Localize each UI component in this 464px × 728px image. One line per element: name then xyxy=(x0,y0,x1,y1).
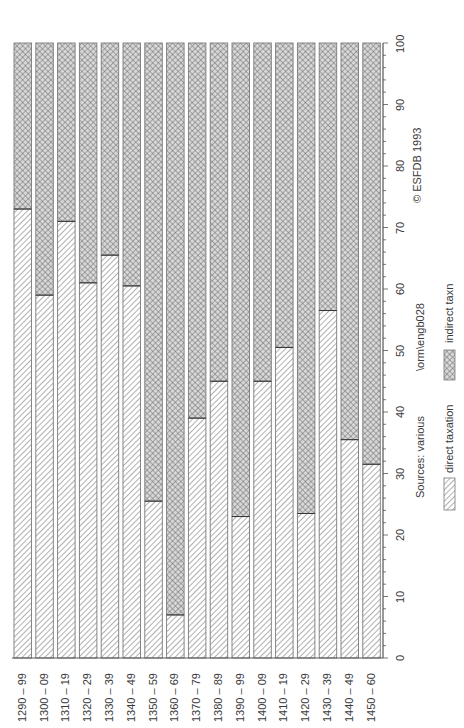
bar-segment-indirect-taxn xyxy=(254,43,271,381)
bar xyxy=(58,43,76,658)
category-label: 1310 – 19 xyxy=(59,673,71,722)
bar-segment-direct-taxation xyxy=(58,221,76,658)
bar-segment-direct-taxation xyxy=(210,381,228,658)
tick-label: 90 xyxy=(394,99,406,111)
bar-segment-direct-taxation xyxy=(254,381,271,658)
bar xyxy=(145,43,163,658)
bar-segment-direct-taxation xyxy=(36,295,54,658)
bar-segment-indirect-taxn xyxy=(319,43,337,311)
bar xyxy=(36,43,54,658)
bar-segment-direct-taxation xyxy=(188,418,206,658)
category-label: 1290 – 99 xyxy=(16,673,28,722)
bars-group xyxy=(14,43,380,658)
bar-segment-direct-taxation xyxy=(14,209,32,658)
category-label: 1340 – 49 xyxy=(125,673,137,722)
bar xyxy=(123,43,141,658)
bar-segment-indirect-taxn xyxy=(363,43,381,464)
bar xyxy=(341,43,359,658)
category-label: 1330 – 39 xyxy=(103,673,115,722)
bar xyxy=(79,43,97,658)
bar-segment-indirect-taxn xyxy=(232,43,250,517)
bar-segment-direct-taxation xyxy=(341,440,359,658)
category-label: 1380 – 89 xyxy=(212,673,224,722)
bar xyxy=(297,43,315,658)
category-label: 1320 – 29 xyxy=(81,673,93,722)
tick-label: 100 xyxy=(394,34,406,52)
category-label: 1360 – 69 xyxy=(168,673,180,722)
bar-segment-indirect-taxn xyxy=(341,43,359,440)
bar-segment-indirect-taxn xyxy=(36,43,54,295)
bar xyxy=(254,43,271,658)
bar-segment-indirect-taxn xyxy=(188,43,206,418)
tick-label: 50 xyxy=(394,345,406,357)
category-label: 1430 – 39 xyxy=(321,673,333,722)
bar-segment-direct-taxation xyxy=(79,283,97,658)
tick-label: 0 xyxy=(394,655,406,661)
tick-label: 80 xyxy=(394,160,406,172)
category-label: 1400 – 09 xyxy=(256,673,268,722)
bar-segment-direct-taxation xyxy=(101,255,119,658)
tick-label: 30 xyxy=(394,468,406,480)
bar-segment-direct-taxation xyxy=(145,501,163,658)
bar-segment-indirect-taxn xyxy=(101,43,119,255)
bar xyxy=(319,43,337,658)
category-label: 1370 – 79 xyxy=(190,673,202,722)
bar-segment-indirect-taxn xyxy=(14,43,32,209)
bar-segment-indirect-taxn xyxy=(145,43,163,501)
bar xyxy=(101,43,119,658)
bar xyxy=(276,43,294,658)
bar-segment-indirect-taxn xyxy=(276,43,294,347)
tick-label: 20 xyxy=(394,529,406,541)
category-label: 1390 – 99 xyxy=(234,673,246,722)
bar xyxy=(232,43,250,658)
category-label: 1410 – 19 xyxy=(277,673,289,722)
category-label: 1300 – 09 xyxy=(38,673,50,722)
bar xyxy=(14,43,32,658)
category-label: 1350 – 59 xyxy=(147,673,159,722)
bar-segment-indirect-taxn xyxy=(297,43,315,513)
bar xyxy=(210,43,228,658)
bar-segment-direct-taxation xyxy=(167,615,185,658)
category-label: 1440 – 49 xyxy=(343,673,355,722)
category-label: 1450 – 60 xyxy=(365,673,377,722)
bar-segment-indirect-taxn xyxy=(58,43,76,221)
tick-label: 10 xyxy=(394,591,406,603)
bar-segment-indirect-taxn xyxy=(123,43,141,286)
copyright-note: © ESFDB 1993 xyxy=(411,128,423,203)
legend-swatch-indirect-taxn xyxy=(444,350,455,380)
bar-segment-direct-taxation xyxy=(363,464,381,658)
bar-segment-direct-taxation xyxy=(319,311,337,658)
tick-label: 60 xyxy=(394,283,406,295)
tick-label: 40 xyxy=(394,406,406,418)
sources-note: Sources: various xyxy=(414,416,426,498)
category-label: 1420 – 29 xyxy=(299,673,311,722)
tick-label: 70 xyxy=(394,222,406,234)
file-reference: \orm\engb028 xyxy=(414,303,426,371)
bar-segment-direct-taxation xyxy=(297,513,315,658)
legend-label-direct-taxation: direct taxation xyxy=(443,405,455,473)
bar-segment-indirect-taxn xyxy=(210,43,228,381)
bar-segment-indirect-taxn xyxy=(79,43,97,283)
bar xyxy=(167,43,185,658)
bar xyxy=(188,43,206,658)
bar-segment-direct-taxation xyxy=(276,347,294,658)
legend-swatch-direct-taxation xyxy=(444,478,455,510)
bar-segment-direct-taxation xyxy=(232,517,250,658)
bar xyxy=(363,43,381,658)
bar-segment-direct-taxation xyxy=(123,286,141,658)
bar-segment-indirect-taxn xyxy=(167,43,185,615)
legend-label-indirect-taxn: indirect taxn xyxy=(443,284,455,343)
